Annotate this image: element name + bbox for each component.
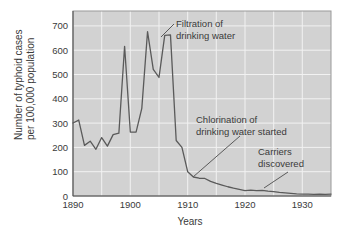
- y-tick-label: 600: [52, 45, 68, 56]
- x-tick-label: 1890: [62, 199, 83, 210]
- chlorination-label-line2: drinking water started: [196, 126, 287, 137]
- y-tick-label: 700: [52, 20, 68, 31]
- typhoid-cases-figure: 0 100 200 300 400 500 600 700 1890 1900 …: [0, 0, 348, 236]
- x-tick-label: 1910: [177, 199, 198, 210]
- x-tick-label: 1900: [120, 199, 141, 210]
- y-tick-labels: 0 100 200 300 400 500 600 700: [52, 20, 68, 201]
- carriers-label-line2: discovered: [258, 158, 304, 169]
- chart-canvas: 0 100 200 300 400 500 600 700 1890 1900 …: [0, 0, 348, 236]
- carriers-label-line1: Carriers: [258, 146, 292, 157]
- y-tick-label: 400: [52, 93, 68, 104]
- y-tick-label: 300: [52, 118, 68, 129]
- x-tick-label: 1920: [234, 199, 255, 210]
- filtration-label-line2: drinking water: [176, 30, 235, 41]
- y-tick-label: 200: [52, 142, 68, 153]
- filtration-label-line1: Filtration of: [176, 18, 223, 29]
- chlorination-label-line1: Chlorination of: [196, 114, 258, 125]
- y-tick-label: 500: [52, 69, 68, 80]
- x-tick-labels: 1890 1900 1910 1920 1930: [62, 199, 312, 210]
- y-axis-title-line1: Number of typhoid cases: [13, 29, 24, 140]
- x-axis-title: Years: [177, 216, 202, 227]
- x-tick-label: 1930: [292, 199, 313, 210]
- y-tick-label: 100: [52, 166, 68, 177]
- y-axis-title-line2: per 100,000 population: [25, 38, 36, 140]
